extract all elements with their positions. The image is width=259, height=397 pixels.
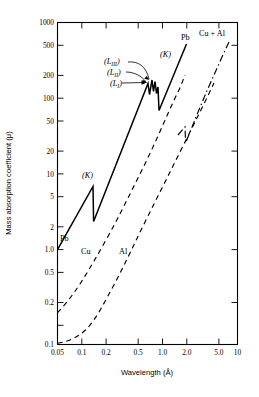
annotation-l2: (LII) <box>107 68 121 78</box>
y-tick-label: 0.2 <box>45 298 55 307</box>
svg-text:(LI): (LI) <box>110 79 122 89</box>
y-tick-label: 20 <box>47 147 55 156</box>
curve-label-pb-left: Pb <box>60 234 69 243</box>
svg-text:(LII): (LII) <box>107 68 121 78</box>
annot-l1-close: ) <box>118 79 122 88</box>
curve-pb <box>58 44 187 250</box>
x-tick-label: 2.0 <box>182 348 192 357</box>
curve-cu-al <box>178 42 229 143</box>
curve-label-al: Al <box>119 247 128 256</box>
y-axis-ticks-right <box>232 45 238 302</box>
y-tick-label: 5 <box>50 192 54 201</box>
x-tick-label: 0.1 <box>77 348 87 357</box>
curve-al <box>58 83 215 343</box>
svg-text:(LIII): (LIII) <box>104 57 120 67</box>
annotation-l1: (LI) <box>110 79 122 89</box>
x-tick-label: 10 <box>234 348 242 357</box>
y-tick-label: 0.5 <box>45 268 55 277</box>
curve-cu <box>58 75 186 313</box>
chart-figure: 1000 500 200 100 50 20 10 5 2 1.0 0.5 0.… <box>0 0 259 397</box>
y-axis-ticks <box>58 23 64 345</box>
x-tick-label: 0.05 <box>51 348 64 357</box>
x-axis-title: Wavelength (Å) <box>121 368 174 377</box>
annotation-k-cu: (K) <box>160 50 171 59</box>
annot-l2-close: ) <box>117 68 121 77</box>
l-edge-leaders <box>122 62 150 85</box>
y-tick-label: 500 <box>43 41 54 50</box>
y-tick-label: 1.0 <box>45 245 55 254</box>
x-tick-label: 0.5 <box>134 348 144 357</box>
x-axis-ticks <box>58 339 238 345</box>
x-tick-label: 0.2 <box>101 348 111 357</box>
x-tick-label: 1.0 <box>158 348 168 357</box>
y-tick-label: 1000 <box>39 18 54 27</box>
annotation-k-pb: (K) <box>82 171 93 180</box>
annot-l3-close: ) <box>116 57 120 66</box>
y-tick-label: 50 <box>47 117 55 126</box>
y-axis-title: Mass absorption coefficient (μ) <box>4 131 13 235</box>
y-tick-label: 200 <box>43 71 54 80</box>
curve-label-cu: Cu <box>81 247 91 256</box>
y-tick-label: 2 <box>50 223 54 232</box>
plot-frame <box>58 23 238 345</box>
chart-svg: 1000 500 200 100 50 20 10 5 2 1.0 0.5 0.… <box>0 0 259 397</box>
y-axis-tick-labels: 1000 500 200 100 50 20 10 5 2 1.0 0.5 0.… <box>39 18 54 349</box>
y-tick-label: 10 <box>47 170 55 179</box>
x-axis-tick-labels: 0.05 0.1 0.2 0.5 1.0 2.0 5.0 10 <box>51 348 241 357</box>
curve-label-cu-al: Cu + Al <box>199 29 226 38</box>
x-axis-ticks-top <box>82 23 219 29</box>
y-tick-label: 100 <box>43 94 54 103</box>
x-tick-label: 5.0 <box>214 348 224 357</box>
annotation-l3: (LIII) <box>104 57 120 67</box>
curve-label-pb-top: Pb <box>181 33 190 42</box>
